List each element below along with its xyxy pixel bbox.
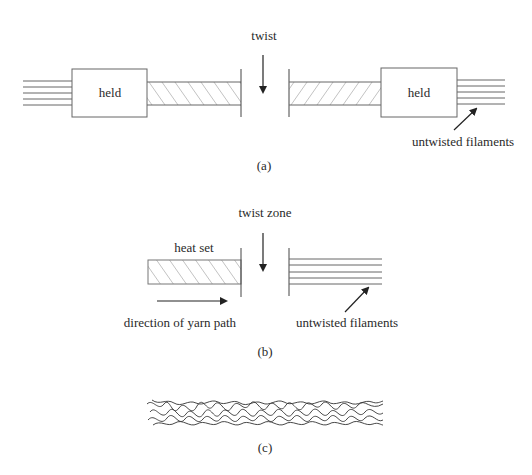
heat-set-yarn	[148, 260, 241, 284]
panel-b-filaments	[289, 259, 382, 284]
panel-b-filaments-label: untwisted filaments	[296, 315, 398, 330]
left-held-label: held	[99, 85, 122, 100]
twist-zone-label: twist zone	[238, 205, 291, 220]
panel-c-caption: (c)	[258, 440, 272, 455]
right-filaments	[457, 80, 505, 104]
panel-c: (c)	[147, 400, 383, 455]
panel-b-caption: (b)	[257, 344, 272, 359]
left-filaments	[23, 81, 72, 105]
direction-label: direction of yarn path	[124, 315, 237, 330]
false-twist-texturing-diagram: held twist held untwisted	[0, 0, 532, 475]
panel-a-filaments-label: untwisted filaments	[412, 134, 514, 149]
heat-set-label: heat set	[174, 240, 214, 255]
twist-label: twist	[251, 28, 277, 43]
right-twisted-yarn	[289, 82, 381, 105]
right-held-label: held	[408, 85, 431, 100]
panel-a-caption: (a)	[257, 158, 271, 173]
panel-a: held twist held untwisted	[23, 28, 514, 173]
left-twisted-yarn	[147, 82, 241, 105]
crimped-yarn	[147, 400, 383, 425]
panel-b: twist zone heat set direction of yarn pa…	[124, 205, 398, 359]
panel-b-pointer-arrow-icon	[345, 288, 368, 312]
